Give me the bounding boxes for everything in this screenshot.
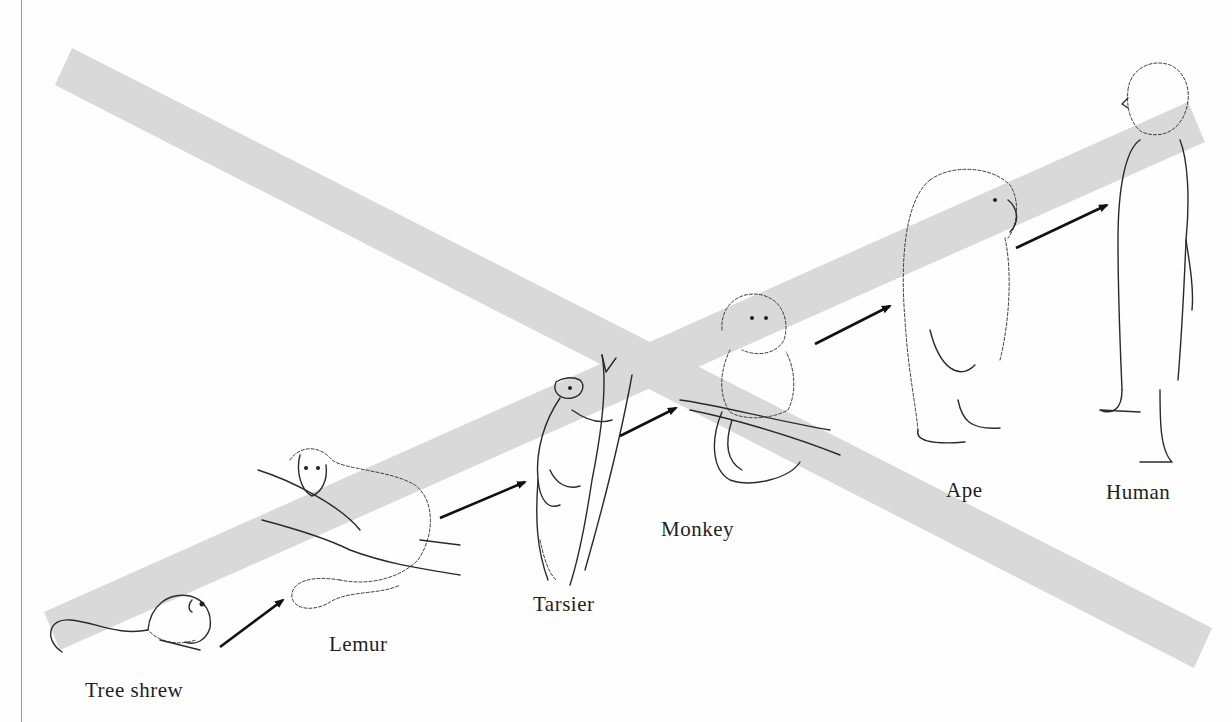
label-lemur: Lemur: [329, 632, 387, 657]
arrow-tarsier-to-monkey: [620, 408, 676, 436]
arrow-lemur-to-tarsier: [440, 482, 525, 518]
label-tarsier: Tarsier: [533, 592, 595, 617]
progression-arrows: [220, 205, 1107, 647]
arrow-shrew-to-lemur: [220, 600, 283, 647]
diagram-drawing: [0, 0, 1232, 722]
label-tree-shrew: Tree shrew: [85, 678, 183, 703]
label-monkey: Monkey: [661, 517, 734, 542]
label-ape: Ape: [946, 478, 983, 503]
arrow-monkey-to-ape: [815, 306, 890, 344]
diagram-canvas: Tree shrew Lemur Tarsier Monkey Ape Huma…: [0, 0, 1232, 722]
label-human: Human: [1106, 480, 1170, 505]
cross-out-x: [44, 48, 1212, 668]
